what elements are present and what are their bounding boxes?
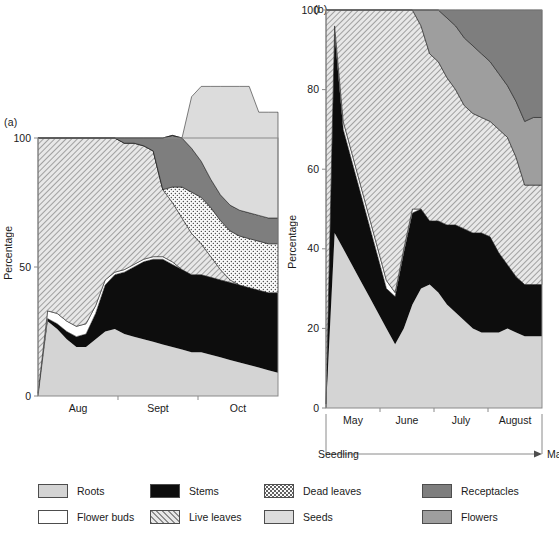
legend-label-flowers: Flowers <box>461 512 498 523</box>
legend-label-receptacles: Receptacles <box>461 486 519 497</box>
legend-item-roots: Roots <box>38 478 134 504</box>
figure-legend: RootsFlower budsStemsLive leavesDead lea… <box>0 478 559 547</box>
legend-swatch-dead_leaves <box>264 484 294 498</box>
legend-swatch-roots <box>38 484 68 498</box>
y-tick-label: 0 <box>313 402 319 414</box>
y-tick-label: 20 <box>307 322 319 334</box>
y-tick-label: 100 <box>301 4 319 16</box>
x-category-label: May <box>343 414 364 426</box>
legend-item-dead_leaves: Dead leaves <box>264 478 361 504</box>
legend-label-roots: Roots <box>77 486 104 497</box>
y-tick-label: 100 <box>13 132 31 144</box>
legend-label-seeds: Seeds <box>303 512 333 523</box>
legend-item-live_leaves: Live leaves <box>150 504 242 530</box>
legend-swatch-stems <box>150 484 180 498</box>
panel-a-chart: 050100AugSeptOct <box>10 132 288 434</box>
legend-swatch-flower_buds <box>38 510 68 524</box>
y-tick-label: 40 <box>307 242 319 254</box>
legend-swatch-seeds <box>264 510 294 524</box>
x-category-label: July <box>452 414 471 426</box>
stage-start-label: Seedling <box>318 448 359 460</box>
legend-column-4: ReceptaclesFlowers <box>422 478 519 530</box>
panel-a-label: (a) <box>4 116 17 128</box>
legend-label-stems: Stems <box>189 486 219 497</box>
y-tick-label: 50 <box>19 261 31 273</box>
x-category-label: Oct <box>230 402 246 414</box>
legend-swatch-flowers <box>422 510 452 524</box>
legend-item-flower_buds: Flower buds <box>38 504 134 530</box>
legend-column-3: Dead leavesSeeds <box>264 478 361 530</box>
legend-swatch-live_leaves <box>150 510 180 524</box>
y-tick-label: 0 <box>25 390 31 402</box>
legend-column-2: StemsLive leaves <box>150 478 242 530</box>
legend-item-stems: Stems <box>150 478 242 504</box>
x-category-label: August <box>499 414 532 426</box>
stage-arrow-icon <box>534 450 542 457</box>
legend-item-flowers: Flowers <box>422 504 519 530</box>
panel-b-chart: 020406080100MayJuneJulyAugustSeedlingMat… <box>294 6 556 466</box>
panel-b: (b) Percentage 020406080100MayJuneJulyAu… <box>284 0 559 470</box>
legend-item-receptacles: Receptacles <box>422 478 519 504</box>
legend-label-dead_leaves: Dead leaves <box>303 486 361 497</box>
legend-label-flower_buds: Flower buds <box>77 512 134 523</box>
x-category-label: Sept <box>147 402 169 414</box>
y-tick-label: 80 <box>307 83 319 95</box>
legend-item-seeds: Seeds <box>264 504 361 530</box>
legend-swatch-receptacles <box>422 484 452 498</box>
legend-column-1: RootsFlower buds <box>38 478 134 530</box>
x-category-label: Aug <box>69 402 88 414</box>
x-category-label: June <box>396 414 419 426</box>
stage-end-label: Mature <box>547 448 559 460</box>
y-tick-label: 60 <box>307 163 319 175</box>
legend-label-live_leaves: Live leaves <box>189 512 242 523</box>
panel-a: (a) Percentage 050100AugSeptOct <box>0 108 290 438</box>
